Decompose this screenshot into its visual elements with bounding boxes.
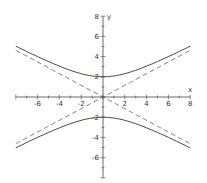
y-tick-label: 2 — [95, 73, 99, 81]
y-tick-label: 4 — [95, 53, 100, 61]
x-tick-label: -4 — [56, 100, 64, 108]
y-axis-label: y — [107, 13, 111, 21]
x-tick-label: 2 — [123, 100, 127, 108]
x-axis-label: x — [188, 86, 192, 94]
y-tick-label: 8 — [95, 13, 99, 21]
x-tick-label: 4 — [144, 100, 149, 108]
y-tick-label: 6 — [95, 33, 100, 41]
x-tick-label: -6 — [34, 100, 42, 108]
x-tick-label: 6 — [166, 100, 171, 108]
y-tick-label: -6 — [92, 154, 100, 162]
y-tick-label: -4 — [92, 134, 100, 142]
x-tick-label: -2 — [78, 100, 85, 108]
x-tick-label: 8 — [188, 100, 192, 108]
hyperbola-chart: -6-4-224688642-2-4-6xy — [0, 0, 207, 183]
